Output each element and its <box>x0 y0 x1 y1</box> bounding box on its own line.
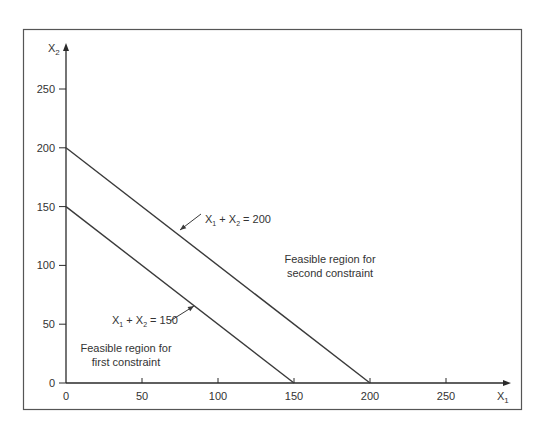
x-axis-arrow-icon <box>503 380 511 386</box>
linear-programming-chart: X1X2 050100150200250050100150200250 X1 +… <box>0 0 543 431</box>
annotations: X1 + X2 = 200X1 + X2 = 150Feasible regio… <box>80 213 375 368</box>
x-tick-label: 250 <box>437 390 455 402</box>
y-tick-label: 150 <box>37 201 55 213</box>
region-label-first-constraint: first constraint <box>92 356 160 368</box>
equation-label-150: X1 + X2 = 150 <box>112 314 178 328</box>
y-tick-label: 0 <box>49 377 55 389</box>
equation-label-200: X1 + X2 = 200 <box>205 213 271 227</box>
y-axis-label: X2 <box>48 42 60 57</box>
x-tick-label: 150 <box>285 390 303 402</box>
x-tick-label: 0 <box>63 390 69 402</box>
y-tick-label: 200 <box>37 142 55 154</box>
x-axis-label: X1 <box>497 390 509 405</box>
x-tick-label: 200 <box>361 390 379 402</box>
y-axis-arrow-icon <box>63 43 69 51</box>
x-tick-label: 100 <box>209 390 227 402</box>
y-tick-label: 50 <box>43 318 55 330</box>
region-label-first-constraint: Feasible region for <box>80 342 171 354</box>
leader-arrow-150-head-icon <box>188 306 194 311</box>
axis-ticks: 050100150200250050100150200250 <box>37 83 456 402</box>
region-label-second-constraint: Feasible region for <box>284 253 375 265</box>
region-label-second-constraint: second constraint <box>287 267 373 279</box>
leader-arrow-200-head-icon <box>180 224 186 230</box>
y-tick-label: 250 <box>37 83 55 95</box>
x-tick-label: 50 <box>136 390 148 402</box>
y-tick-label: 100 <box>37 259 55 271</box>
